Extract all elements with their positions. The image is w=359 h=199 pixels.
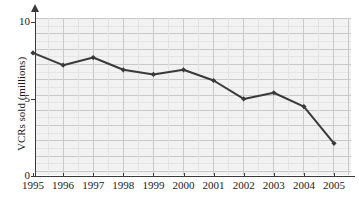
y-axis-arrow-icon [31,4,39,12]
x-tick-label: 1998 [112,179,134,192]
x-tick-label: 2002 [233,179,255,192]
x-tick-mark [274,173,275,177]
x-tick-label: 1996 [52,179,74,192]
y-axis-title: VCRs sold (millions) [15,39,27,169]
x-tick-mark [93,173,94,177]
plot-area [36,18,351,175]
x-tick-label: 1999 [142,179,164,192]
line-chart: 0510 19951996199719981999200020012002200… [0,0,359,199]
x-tick-mark [63,173,64,177]
y-axis-line [35,10,36,177]
x-tick-mark [334,173,335,177]
y-axis-title-holder: VCRs sold (millions) [8,20,22,170]
x-tick-mark [33,173,34,177]
y-tick-mark [31,99,36,100]
x-tick-label: 2000 [173,179,195,192]
x-axis-line [33,176,355,177]
x-tick-mark [214,173,215,177]
x-tick-mark [184,173,185,177]
x-tick-mark [304,173,305,177]
x-tick-label: 1997 [82,179,104,192]
x-tick-label: 2001 [203,179,225,192]
x-tick-mark [123,173,124,177]
x-tick-label: 2003 [263,179,285,192]
y-tick-mark [31,22,36,23]
x-tick-label: 2004 [293,179,315,192]
x-tick-label: 2005 [323,179,345,192]
x-tick-labels: 1995199619971998199920002001200220032004… [0,179,359,199]
x-tick-label: 1995 [22,179,44,192]
x-tick-mark [153,173,154,177]
x-tick-mark [244,173,245,177]
